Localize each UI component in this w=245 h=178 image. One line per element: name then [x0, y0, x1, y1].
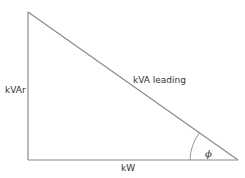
kva-hypotenuse — [28, 12, 238, 160]
angle-arc — [190, 133, 200, 160]
power-triangle-diagram: kVAr kVA leading kW ϕ — [0, 0, 245, 178]
phi-angle-label: ϕ — [205, 148, 212, 159]
kw-label: kW — [121, 163, 135, 173]
kvar-label: kVAr — [5, 85, 26, 95]
kva-label: kVA leading — [133, 75, 186, 85]
